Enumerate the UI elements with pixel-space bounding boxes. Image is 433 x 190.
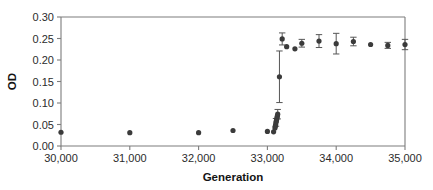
y-tick-label: 0.20 [33,54,54,66]
data-point [265,129,270,134]
x-axis-title: Generation [203,171,264,183]
x-axis-tick-labels: 30,00031,00032,00033,00034,00035,000 [44,152,422,164]
data-point [334,41,339,46]
x-tick-label: 34,000 [319,152,353,164]
data-point [284,44,289,49]
y-tick-label: 0.25 [33,33,54,45]
data-point [299,41,304,46]
y-axis-title: OD [6,73,18,90]
x-tick-label: 31,000 [113,152,147,164]
y-axis-tick-labels: 0.000.050.100.150.200.250.30 [33,11,54,152]
data-point [196,130,201,135]
data-point-markers [58,36,407,135]
y-tick-label: 0.15 [33,76,54,88]
scatter-chart-figure: 0.000.050.100.150.200.250.30 30,00031,00… [0,0,433,190]
y-tick-label: 0.30 [33,11,54,23]
data-point [316,38,321,43]
axis-lines [61,17,405,146]
y-tick-label: 0.05 [33,119,54,131]
data-point [385,43,390,48]
data-point [292,46,297,51]
data-point [275,112,280,117]
x-tick-label: 33,000 [251,152,285,164]
x-tick-label: 35,000 [388,152,422,164]
data-point [127,130,132,135]
data-point [280,36,285,41]
data-point [277,74,282,79]
y-tick-label: 0.10 [33,97,54,109]
data-point [402,42,407,47]
data-point [58,130,63,135]
x-tick-label: 30,000 [44,152,78,164]
data-point [230,128,235,133]
data-point [351,39,356,44]
plot-canvas: 0.000.050.100.150.200.250.30 30,00031,00… [0,0,433,190]
x-tick-label: 32,000 [182,152,216,164]
data-point [368,42,373,47]
y-tick-label: 0.00 [33,140,54,152]
